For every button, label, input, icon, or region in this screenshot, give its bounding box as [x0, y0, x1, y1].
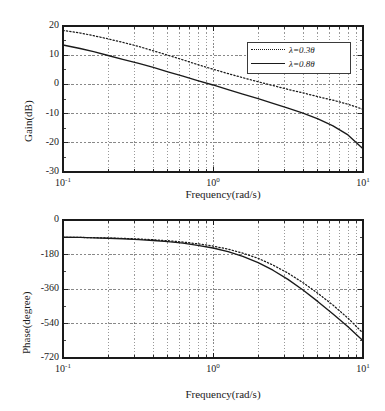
- magnitude-x-axis-label: Frequency(rad/s): [143, 188, 303, 200]
- phase-y-tick: -180: [27, 248, 59, 259]
- magnitude-y-tick: 20: [27, 19, 59, 30]
- phase-y-axis-label: Phase(degree): [20, 244, 32, 354]
- magnitude-y-tick: -30: [27, 165, 59, 176]
- magnitude-plot-panel: Gain(dB) Frequency(rad/s) λ=0.3θ λ=0.8θ …: [0, 0, 385, 200]
- legend-item-0: λ=0.3θ: [248, 43, 350, 57]
- magnitude-y-tick: 0: [27, 77, 59, 88]
- legend: λ=0.3θ λ=0.8θ: [247, 42, 351, 74]
- phase-y-tick: -540: [27, 317, 59, 328]
- legend-swatch-solid: [251, 63, 285, 65]
- phase-x-axis-label: Frequency(rad/s): [143, 388, 303, 400]
- magnitude-x-tick: 101: [343, 176, 383, 188]
- magnitude-y-tick: -10: [27, 107, 59, 118]
- phase-x-tick: 100: [193, 362, 233, 374]
- magnitude-y-axis-label: Gain(dB): [22, 62, 34, 142]
- magnitude-x-tick: 100: [193, 176, 233, 188]
- phase-plot-panel: Phase(degree) Frequency(rad/s) 0-180-360…: [0, 200, 385, 411]
- magnitude-x-tick: 10-1: [43, 176, 83, 188]
- legend-label-1: λ=0.8θ: [289, 59, 315, 69]
- phase-x-tick: 10-1: [43, 362, 83, 374]
- phase-y-tick: -720: [27, 351, 59, 362]
- phase-y-tick: 0: [27, 213, 59, 224]
- phase-x-tick: 101: [343, 362, 383, 374]
- magnitude-y-tick: -20: [27, 136, 59, 147]
- phase-y-tick: -360: [27, 282, 59, 293]
- bode-plot-figure: Gain(dB) Frequency(rad/s) λ=0.3θ λ=0.8θ …: [0, 0, 385, 411]
- legend-item-1: λ=0.8θ: [248, 57, 350, 71]
- legend-swatch-dotted: [251, 49, 285, 51]
- phase-plot-svg: [0, 200, 385, 411]
- legend-label-0: λ=0.3θ: [289, 45, 315, 55]
- magnitude-y-tick: 10: [27, 48, 59, 59]
